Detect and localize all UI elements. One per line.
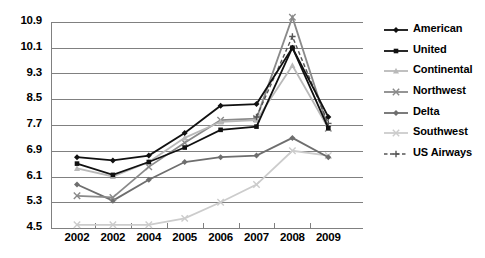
legend-item-continental[interactable]: Continental xyxy=(383,59,483,80)
legend-item-united[interactable]: United xyxy=(383,39,483,60)
legend-label: Southwest xyxy=(413,125,468,137)
data-point-square xyxy=(75,161,80,166)
series-line xyxy=(77,17,328,197)
legend-label: United xyxy=(413,43,447,55)
x-tick-label: 2009 xyxy=(306,231,350,243)
legend-marker-icon xyxy=(383,146,409,158)
data-point-square xyxy=(394,49,399,54)
legend-label: Delta xyxy=(413,105,439,117)
chart-root: 4.55.36.16.97.78.59.310.110.9 2002200220… xyxy=(0,0,485,258)
data-point-diamond xyxy=(218,154,224,160)
data-point-square xyxy=(326,126,331,131)
data-point-diamond xyxy=(110,157,116,163)
data-point-diamond xyxy=(254,153,260,159)
legend-label: Northwest xyxy=(413,84,466,96)
legend-marker-icon xyxy=(383,84,409,96)
legend-item-us-airways[interactable]: US Airways xyxy=(383,142,483,163)
legend-marker-icon xyxy=(383,22,409,34)
legend-label: Continental xyxy=(413,63,472,75)
legend-label: American xyxy=(413,22,462,34)
data-point-square xyxy=(182,145,187,150)
data-point-diamond xyxy=(182,159,188,165)
legend-marker-icon xyxy=(383,63,409,75)
legend-marker-icon xyxy=(383,105,409,117)
chart-legend: AmericanUnitedContinentalNorthwestDeltaS… xyxy=(383,18,483,162)
legend-label: US Airways xyxy=(413,146,472,158)
series-delta xyxy=(74,135,331,204)
legend-marker-icon xyxy=(383,43,409,55)
legend-item-northwest[interactable]: Northwest xyxy=(383,80,483,101)
data-point-plus xyxy=(289,33,295,39)
data-point-diamond xyxy=(393,27,399,33)
series-line xyxy=(77,48,328,161)
data-point-plus xyxy=(393,151,399,157)
data-point-square xyxy=(147,160,152,165)
data-point-square xyxy=(218,128,223,133)
series-american xyxy=(74,45,331,164)
legend-item-southwest[interactable]: Southwest xyxy=(383,121,483,142)
data-point-diamond xyxy=(74,182,80,188)
series-line xyxy=(77,138,328,201)
data-point-x xyxy=(217,199,223,205)
data-point-diamond xyxy=(393,110,399,116)
data-point-x xyxy=(253,181,259,187)
data-point-square xyxy=(111,173,116,178)
data-point-triangle xyxy=(289,62,295,68)
series-line xyxy=(77,151,328,225)
legend-item-american[interactable]: American xyxy=(383,18,483,39)
data-point-diamond xyxy=(74,154,80,160)
data-point-square xyxy=(254,124,259,129)
legend-item-delta[interactable]: Delta xyxy=(383,100,483,121)
legend-marker-icon xyxy=(383,125,409,137)
